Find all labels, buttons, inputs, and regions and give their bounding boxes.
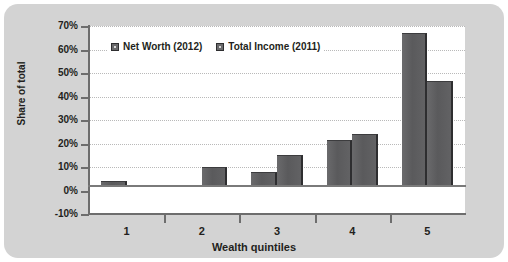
x-axis-title: Wealth quintiles: [4, 241, 504, 253]
bar: [277, 155, 303, 186]
y-axis-tick: [81, 167, 89, 169]
negative-value-band: [89, 186, 465, 214]
y-axis-tick-label: 0%: [8, 186, 78, 196]
bar: [427, 81, 453, 186]
x-axis-line: [88, 213, 466, 215]
y-axis-tick: [81, 120, 89, 122]
bar: [251, 172, 277, 186]
legend-swatch-icon: [111, 43, 119, 51]
bar: [327, 140, 353, 186]
x-axis-tick-label: 1: [97, 225, 157, 237]
chart-legend: Net Worth (2012)Total Income (2011): [108, 40, 323, 53]
y-axis-tick-label: 10%: [8, 162, 78, 172]
y-axis-tick: [81, 144, 89, 146]
bar: [352, 134, 378, 186]
x-axis-tick-label: 3: [247, 225, 307, 237]
x-axis-tick: [390, 215, 392, 223]
x-axis-zero-line: [88, 185, 466, 187]
bar: [202, 167, 228, 186]
legend-item: Net Worth (2012): [111, 41, 202, 52]
legend-swatch-icon: [216, 43, 224, 51]
x-axis-tick-label: 5: [397, 225, 457, 237]
bar: [402, 33, 428, 186]
y-axis-tick: [81, 73, 89, 75]
y-axis-title: Share of total: [16, 39, 27, 149]
x-axis-tick-label: 2: [172, 225, 232, 237]
chart-panel: 70%60%50%40%30%20%10%0%-10% Share of tot…: [4, 4, 504, 258]
y-axis-tick: [81, 26, 89, 28]
y-axis-tick-label: -10%: [8, 209, 78, 219]
y-axis-tick: [81, 97, 89, 99]
y-axis-tick-label: 70%: [8, 21, 78, 31]
legend-label: Net Worth (2012): [123, 41, 202, 52]
legend-label: Total Income (2011): [228, 41, 320, 52]
x-axis-tick: [164, 215, 166, 223]
legend-item: Total Income (2011): [216, 41, 320, 52]
y-axis-tick: [81, 191, 89, 193]
x-axis-tick: [239, 215, 241, 223]
y-axis-tick: [81, 50, 89, 52]
y-axis-tick: [81, 214, 89, 216]
gridline: [89, 26, 465, 27]
x-axis-tick-label: 4: [322, 225, 382, 237]
x-axis-tick: [315, 215, 317, 223]
